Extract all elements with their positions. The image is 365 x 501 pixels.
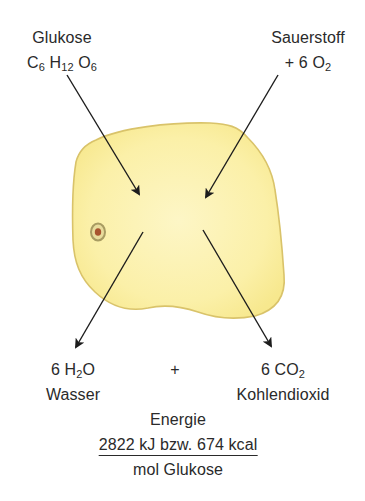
nucleus [91,224,105,241]
oxygen-label: Sauerstoff [271,29,345,47]
oxygen-formula: + 6 O2 [285,54,331,72]
co2-label: Kohlendioxid [237,386,330,404]
glucose-label: Glukose [32,29,91,47]
cell-body [73,123,285,318]
glucose-formula: C6 H12 O6 [27,54,97,72]
co2-formula: 6 CO2 [261,361,305,379]
energy-denominator: mol Glukose [133,461,223,479]
water-label: Wasser [46,386,100,404]
energy-numerator: 2822 kJ bzw. 674 kcal [99,436,258,456]
plus-sign: + [170,361,179,379]
energy-label: Energie [150,411,206,429]
water-formula: 6 H2O [51,361,95,379]
